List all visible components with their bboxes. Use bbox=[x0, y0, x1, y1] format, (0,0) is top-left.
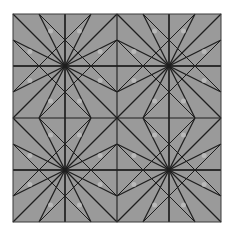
highlight-kite bbox=[202, 78, 207, 83]
highlight-kite bbox=[77, 28, 82, 33]
star-pattern-figure bbox=[0, 0, 236, 239]
highlight-kite bbox=[98, 182, 103, 187]
highlight-kite bbox=[27, 182, 32, 187]
highlight-kite bbox=[181, 132, 186, 137]
highlight-kite bbox=[181, 99, 186, 104]
highlight-kite bbox=[202, 182, 207, 187]
highlight-kite bbox=[98, 78, 103, 83]
highlight-kite bbox=[202, 153, 207, 158]
highlight-kite bbox=[27, 49, 32, 54]
highlight-kite bbox=[27, 78, 32, 83]
highlight-kite bbox=[202, 49, 207, 54]
highlight-kite bbox=[77, 132, 82, 137]
highlight-kite bbox=[48, 99, 53, 104]
highlight-kite bbox=[27, 153, 32, 158]
highlight-kite bbox=[48, 132, 53, 137]
highlight-kite bbox=[131, 49, 136, 54]
highlight-kite bbox=[48, 203, 53, 208]
highlight-kite bbox=[131, 153, 136, 158]
highlight-kite bbox=[77, 203, 82, 208]
highlight-kite bbox=[181, 28, 186, 33]
pattern-lines bbox=[13, 14, 221, 222]
highlight-kite bbox=[48, 28, 53, 33]
highlight-kite bbox=[181, 203, 186, 208]
highlight-kite bbox=[98, 49, 103, 54]
highlight-kite bbox=[152, 132, 157, 137]
highlight-kite bbox=[131, 182, 136, 187]
highlight-kite bbox=[152, 203, 157, 208]
highlight-kite bbox=[131, 78, 136, 83]
highlight-kite bbox=[152, 99, 157, 104]
highlight-kite bbox=[98, 153, 103, 158]
highlight-kite bbox=[152, 28, 157, 33]
highlight-kite bbox=[77, 99, 82, 104]
